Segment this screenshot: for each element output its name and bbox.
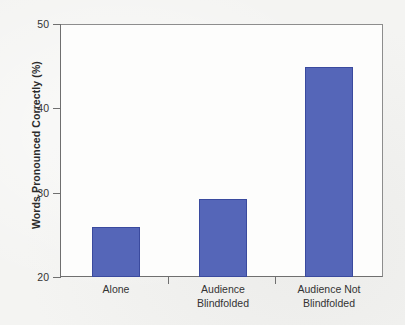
x-axis-label-alone-line-1: Alone	[56, 283, 176, 297]
y-axis-title: Words Pronounced Correctly (%)	[30, 30, 42, 260]
y-tick-30	[53, 193, 61, 194]
y-tick-40	[53, 108, 61, 109]
y-tick-label-40: 40	[9, 102, 49, 114]
x-axis-label-audience-not-blindfolded: Audience Not Blindfolded	[269, 283, 389, 310]
x-axis-label-audience-not-blindfolded-line-2: Blindfolded	[269, 297, 389, 311]
x-axis-label-audience-not-blindfolded-line-1: Audience Not	[269, 283, 389, 297]
bar-alone	[92, 227, 140, 277]
x-axis-label-audience-blindfolded-line-1: Audience	[163, 283, 283, 297]
x-axis-label-audience-blindfolded: Audience Blindfolded	[163, 283, 283, 310]
x-axis-label-audience-blindfolded-line-2: Blindfolded	[163, 297, 283, 311]
x-axis-label-alone: Alone	[56, 283, 176, 297]
bar-audience-blindfolded	[199, 199, 247, 277]
bar-chart: Words Pronounced Correctly (%) 50 40 30 …	[0, 0, 405, 325]
y-tick-50	[53, 24, 61, 25]
y-tick-label-50: 50	[9, 18, 49, 30]
y-tick-label-20: 20	[9, 271, 49, 283]
y-tick-label-30: 30	[9, 187, 49, 199]
bar-audience-not-blindfolded	[305, 67, 353, 277]
y-tick-20	[53, 277, 61, 278]
